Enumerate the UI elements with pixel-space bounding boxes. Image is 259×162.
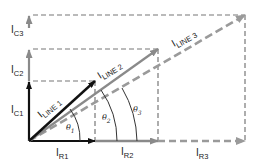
theta1-label: θ1: [66, 123, 75, 134]
iline2-label: ILINE 2: [95, 58, 124, 84]
theta3-arc: [122, 88, 137, 141]
theta3-label: θ3: [133, 105, 142, 116]
phasor-diagram: IC3 IC2 IC1 IR1 IR2 IR3 ILINE 1 ILINE 2 …: [0, 0, 259, 162]
ir3-label: IR3: [196, 147, 208, 161]
iline3-vector: [29, 15, 245, 141]
ir1-label: IR1: [56, 147, 68, 161]
ir2-label: IR2: [121, 146, 133, 160]
ic2-label: IC2: [11, 64, 23, 78]
theta2-label: θ2: [102, 113, 111, 124]
iline3-label: ILINE 3: [170, 26, 199, 51]
iline2-vector: [29, 49, 158, 141]
ic1-label: IC1: [11, 104, 23, 118]
iline1-label: ILINE 1: [35, 95, 64, 122]
ic3-label: IC3: [11, 24, 23, 38]
iline1-vector: [29, 81, 95, 141]
